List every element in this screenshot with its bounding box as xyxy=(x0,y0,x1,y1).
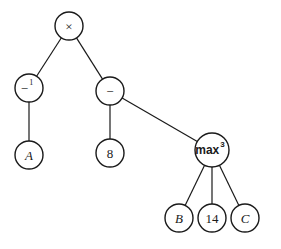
node-label: 14 xyxy=(206,211,220,226)
node-label: 8 xyxy=(107,146,114,161)
node-B: B xyxy=(165,204,193,232)
expression-tree: ×−1−A8max3B14C xyxy=(0,0,281,249)
node-A: A xyxy=(15,141,43,169)
node-label: − xyxy=(106,84,113,99)
node-eight: 8 xyxy=(96,139,124,167)
tree-nodes: ×−1−A8max3B14C xyxy=(15,12,259,232)
node-C: C xyxy=(231,204,259,232)
edge-times-minus xyxy=(76,38,102,79)
node-times: × xyxy=(55,12,83,40)
edge-minus-max xyxy=(122,98,197,141)
node-label: B xyxy=(175,211,183,226)
node-fourteen: 14 xyxy=(198,204,226,232)
edge-max-C xyxy=(219,165,238,205)
node-label: × xyxy=(65,19,72,34)
node-superscript: 3 xyxy=(220,140,225,149)
node-superscript: 1 xyxy=(29,78,33,87)
tree-edges xyxy=(29,38,239,206)
edge-times-inv xyxy=(37,38,62,76)
edge-max-B xyxy=(185,165,204,205)
node-max: max3 xyxy=(195,133,229,167)
node-label: C xyxy=(241,211,250,226)
node-inv: −1 xyxy=(15,74,43,102)
node-minus: − xyxy=(96,77,124,105)
node-label: A xyxy=(24,148,33,163)
